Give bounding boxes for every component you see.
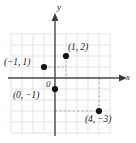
x-axis-label: x — [126, 72, 130, 82]
y-axis-label: y — [57, 2, 61, 12]
data-point-p3 — [52, 86, 58, 92]
point-label-neg1-1: (−1, 1) — [4, 57, 30, 67]
data-point-p1 — [41, 64, 47, 70]
axis-arrowheads — [52, 13, 127, 81]
point-label-1-2: (1, 2) — [68, 42, 88, 52]
origin-label: 0 — [46, 79, 51, 89]
leader-lines — [44, 56, 99, 111]
data-point-p2 — [63, 53, 69, 59]
plot-canvas — [0, 0, 136, 143]
y-axis-arrowhead — [52, 13, 59, 21]
point-label-4-neg3: (4, −3) — [85, 114, 111, 124]
coordinate-plane-figure: (−1, 1) (1, 2) (0, −1) (4, −3) 0 x y — [0, 0, 136, 143]
point-label-0-neg1: (0, −1) — [13, 90, 39, 100]
